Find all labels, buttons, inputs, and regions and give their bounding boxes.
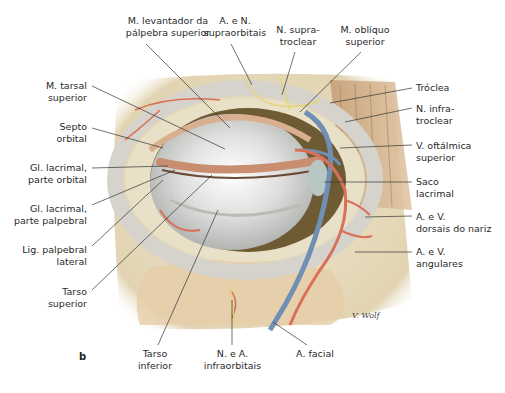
label-saco: Saco lacrimal (416, 176, 454, 200)
label-line: Tróclea (416, 82, 449, 94)
label-line: angulares (416, 258, 463, 270)
label-gl-palpebral: Gl. lacrimal, parte palpebral (0, 203, 87, 227)
label-line: superior (0, 92, 87, 104)
label-line: infraorbitais (195, 360, 270, 372)
label-infraorbitais: N. e A. infraorbitais (195, 348, 270, 372)
label-line: A. facial (280, 348, 350, 360)
label-line: Gl. lacrimal, (0, 203, 87, 215)
label-oftalmica: V. oftálmica superior (416, 140, 471, 164)
label-line: lateral (0, 256, 87, 268)
label-line: supraorbitais (200, 27, 270, 39)
svg-text:V. Wolf: V. Wolf (352, 311, 382, 320)
label-line: Tarso (120, 348, 190, 360)
label-line: orbital (0, 133, 87, 145)
label-dorsais: A. e V. dorsais do nariz (416, 211, 491, 235)
label-line: Tarso (0, 286, 87, 298)
label-tarso-inferior: Tarso inferior (120, 348, 190, 372)
label-line: A. e N. (200, 15, 270, 27)
label-tarsal: M. tarsal superior (0, 80, 87, 104)
label-line: inferior (120, 360, 190, 372)
panel-letter: b (79, 351, 86, 362)
label-line: Lig. palpebral (0, 244, 87, 256)
label-supraorbitais: A. e N. supraorbitais (200, 15, 270, 39)
label-obliquo: M. oblíquo superior (330, 24, 400, 48)
label-tarso-superior: Tarso superior (0, 286, 87, 310)
label-line: N. e A. (195, 348, 270, 360)
label-line: superior (0, 298, 87, 310)
label-gl-orbital: Gl. lacrimal, parte orbital (0, 162, 87, 186)
label-line: M. oblíquo (330, 24, 400, 36)
label-line: lacrimal (416, 188, 454, 200)
label-infratroclear: N. infra- troclear (416, 103, 454, 127)
label-line: Gl. lacrimal, (0, 162, 87, 174)
label-line: A. e V. (416, 246, 463, 258)
label-line: Septo (0, 121, 87, 133)
label-troclea: Tróclea (416, 82, 449, 94)
label-line: parte palpebral (0, 215, 87, 227)
label-line: V. oftálmica (416, 140, 471, 152)
label-line: N. supra- (268, 24, 328, 36)
label-septo: Septo orbital (0, 121, 87, 145)
label-facial: A. facial (280, 348, 350, 360)
label-supratroclear: N. supra- troclear (268, 24, 328, 48)
label-angulares: A. e V. angulares (416, 246, 463, 270)
label-line: A. e V. (416, 211, 491, 223)
label-line: parte orbital (0, 174, 87, 186)
label-line: troclear (268, 36, 328, 48)
label-line: superior (416, 152, 471, 164)
label-line: N. infra- (416, 103, 454, 115)
label-line: superior (330, 36, 400, 48)
label-line: dorsais do nariz (416, 223, 491, 235)
label-line: Saco (416, 176, 454, 188)
label-lig-palpebral: Lig. palpebral lateral (0, 244, 87, 268)
label-line: M. tarsal (0, 80, 87, 92)
label-line: troclear (416, 115, 454, 127)
